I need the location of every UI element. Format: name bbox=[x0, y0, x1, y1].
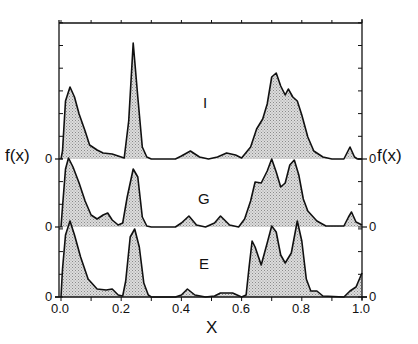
curve-line-E bbox=[61, 221, 362, 297]
zero-label-left-G: 0 bbox=[45, 219, 52, 234]
zero-label-right-I: 0 bbox=[369, 151, 376, 166]
x-tick-0.4: 0.4 bbox=[172, 301, 190, 316]
zero-label-right-G: 0 bbox=[369, 219, 376, 234]
curve-fill-G bbox=[61, 158, 362, 227]
curve-fill-I bbox=[61, 43, 362, 159]
chart-canvas bbox=[0, 0, 418, 344]
curve-fills bbox=[61, 43, 362, 297]
series-label-E: E bbox=[199, 255, 209, 272]
y-axis-label-left: f(x) bbox=[5, 146, 30, 166]
x-tick-0.0: 0.0 bbox=[51, 301, 69, 316]
x-axis-label: X bbox=[206, 318, 217, 338]
curve-line-I bbox=[61, 43, 362, 159]
x-tick-0.2: 0.2 bbox=[112, 301, 130, 316]
x-tick-0.6: 0.6 bbox=[232, 301, 250, 316]
series-label-I: I bbox=[203, 94, 207, 111]
x-tick-0.8: 0.8 bbox=[292, 301, 310, 316]
x-tick-1.0: 1.0 bbox=[352, 301, 370, 316]
zero-label-right-E: 0 bbox=[369, 289, 376, 304]
curve-fill-E bbox=[61, 221, 362, 297]
axes bbox=[55, 19, 367, 301]
zero-label-left-I: 0 bbox=[45, 151, 52, 166]
y-axis-label-right: f(x) bbox=[377, 146, 402, 166]
series-label-G: G bbox=[198, 190, 210, 207]
